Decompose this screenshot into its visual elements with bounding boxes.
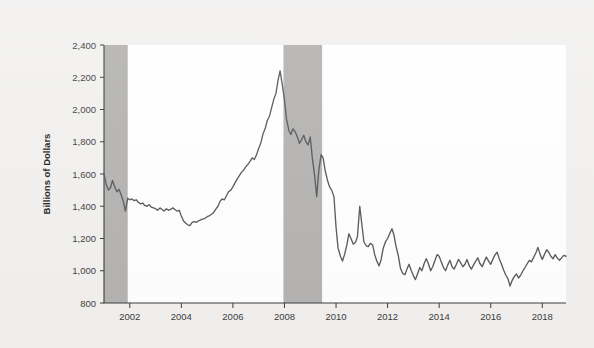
chart-figure: 8001,0001,2001,4001,6001,8002,0002,2002,…	[0, 0, 594, 348]
x-tick-label: 2004	[171, 311, 192, 322]
line-chart: 8001,0001,2001,4001,6001,8002,0002,2002,…	[0, 0, 594, 348]
y-tick-label: 800	[80, 298, 96, 309]
x-tick-label: 2016	[480, 311, 501, 322]
y-tick-label: 1,800	[72, 136, 96, 147]
x-tick-label: 2006	[222, 311, 243, 322]
y-axis-tick-labels: 8001,0001,2001,4001,6001,8002,0002,2002,…	[72, 40, 96, 309]
recession-2007-2009-band	[283, 45, 322, 303]
y-tick-label: 2,000	[72, 104, 96, 115]
y-tick-label: 1,000	[72, 265, 96, 276]
y-tick-label: 1,400	[72, 201, 96, 212]
plot-area-background	[104, 45, 566, 303]
x-axis-tick-labels: 200220042006200820102012201420162018	[119, 311, 553, 322]
y-tick-label: 2,200	[72, 72, 96, 83]
x-tick-label: 2018	[532, 311, 553, 322]
x-tick-label: 2002	[119, 311, 140, 322]
y-tick-label: 1,200	[72, 233, 96, 244]
y-tick-label: 2,400	[72, 40, 96, 51]
recession-2001-band	[104, 45, 128, 303]
x-tick-label: 2014	[429, 311, 450, 322]
x-tick-label: 2008	[274, 311, 295, 322]
x-tick-label: 2010	[325, 311, 346, 322]
y-axis-title: Billions of Dollars	[41, 134, 52, 215]
x-tick-label: 2012	[377, 311, 398, 322]
y-tick-label: 1,600	[72, 169, 96, 180]
